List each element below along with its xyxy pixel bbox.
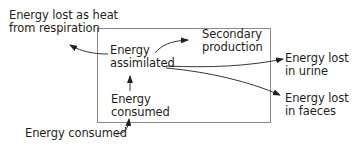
assimilated-line-2: assimilated bbox=[110, 57, 175, 70]
energy-consumed-inner-label: Energy consumed bbox=[111, 93, 170, 119]
energy-consumed-outer-label: Energy consumed bbox=[25, 127, 127, 140]
arrow-to-urine-loss bbox=[166, 59, 283, 67]
urine-line-2: in urine bbox=[285, 65, 349, 78]
secondary-production-label: Secondary production bbox=[202, 28, 263, 54]
heat-loss-line-2: from respiration bbox=[9, 22, 118, 35]
arrow-to-faeces-loss bbox=[166, 68, 280, 95]
secondary-line-2: production bbox=[202, 41, 263, 54]
faeces-line-2: in faeces bbox=[285, 105, 349, 118]
energy-assimilated-label: Energy assimilated bbox=[110, 44, 175, 70]
heat-loss-label: Energy lost as heat from respiration bbox=[9, 9, 118, 35]
consumed-inner-line-2: consumed bbox=[111, 106, 170, 119]
urine-loss-label: Energy lost in urine bbox=[285, 52, 349, 78]
faeces-loss-label: Energy lost in faeces bbox=[285, 92, 349, 118]
arrow-to-heat-loss bbox=[70, 45, 108, 54]
